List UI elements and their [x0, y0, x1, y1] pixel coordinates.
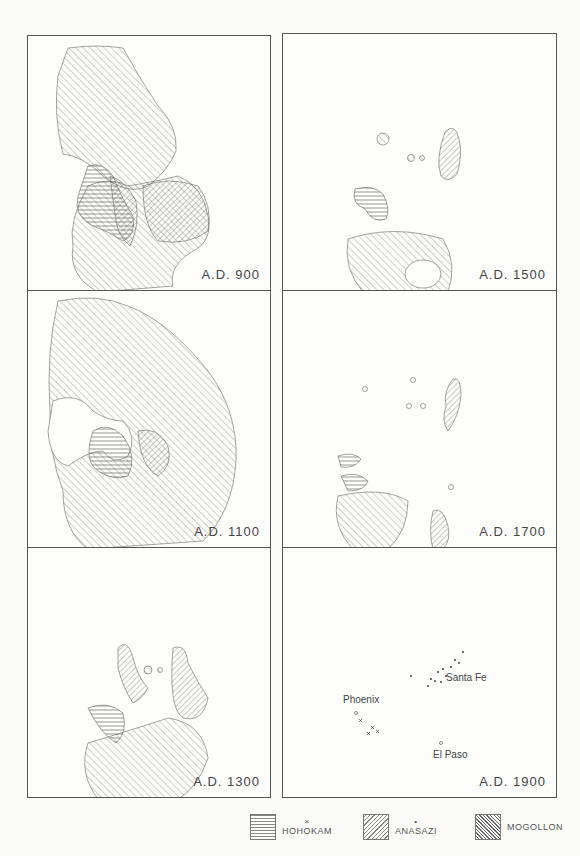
dot-icon: • [414, 818, 417, 826]
period-label: A.D. 1100 [194, 524, 260, 539]
period-label: A.D. 900 [201, 267, 260, 282]
map-ad1500 [283, 34, 557, 291]
map-ad1700 [283, 291, 557, 548]
city-label-phoenix: Phoenix [343, 694, 379, 705]
mogollon-pattern-swatch [475, 814, 501, 840]
map-ad1100 [28, 291, 271, 548]
map-panel-ad1100: A.D. 1100 [27, 290, 271, 548]
hohokam-pattern-swatch [250, 814, 276, 840]
map-panel-ad900: A.D. 900 [27, 35, 271, 291]
x-mark-icon: × [304, 818, 309, 826]
legend-item-mogollon: MOGOLLON [475, 814, 563, 840]
map-panel-ad1700: A.D. 1700 [282, 290, 557, 548]
legend-label: HOHOKAM [282, 826, 332, 836]
map-ad900 [28, 36, 271, 291]
city-label-el-paso: El Paso [433, 749, 467, 760]
map-ad1300 [28, 548, 271, 798]
map-panel-ad1300: A.D. 1300 [27, 547, 271, 798]
legend-label: MOGOLLON [507, 822, 563, 832]
period-label: A.D. 1900 [479, 774, 546, 789]
anasazi-pattern-swatch [363, 814, 389, 840]
hohokam-site-marks [359, 719, 379, 735]
legend-label: ANASAZI [395, 826, 437, 836]
legend-item-anasazi: • ANASAZI [363, 814, 437, 840]
period-label: A.D. 1500 [479, 267, 546, 282]
period-label: A.D. 1300 [193, 774, 260, 789]
map-panel-ad1900: Phoenix Santa Fe El Paso A.D. 1900 [282, 547, 557, 798]
map-panel-ad1500: A.D. 1500 [282, 33, 557, 291]
legend-item-hohokam: × HOHOKAM [250, 814, 332, 840]
period-label: A.D. 1700 [479, 524, 546, 539]
map-ad1900 [283, 548, 557, 798]
city-label-santa-fe: Santa Fe [446, 672, 487, 683]
